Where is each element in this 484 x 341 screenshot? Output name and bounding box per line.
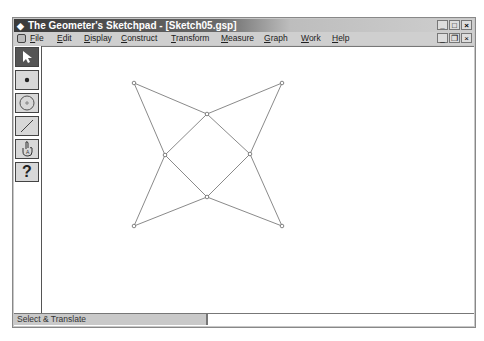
menu-edit[interactable]: Edit xyxy=(57,32,72,45)
menu-file[interactable]: File xyxy=(30,32,44,45)
compass-tool[interactable] xyxy=(15,93,39,113)
circle-icon xyxy=(18,94,36,112)
text-tool[interactable]: A xyxy=(15,139,39,159)
maximize-button[interactable]: □ xyxy=(449,20,460,30)
minimize-button[interactable]: _ xyxy=(437,20,448,30)
document-controls: _ ❐ × xyxy=(437,33,472,43)
menu-help[interactable]: Help xyxy=(332,32,349,45)
menu-work[interactable]: Work xyxy=(301,32,321,45)
menu-graph[interactable]: Graph xyxy=(264,32,288,45)
status-text: Select & Translate xyxy=(14,314,208,325)
menu-construct[interactable]: Construct xyxy=(121,32,157,45)
toolbox: A ? xyxy=(14,46,42,315)
close-button[interactable]: × xyxy=(461,20,472,30)
point-icon xyxy=(22,75,32,85)
arrow-icon xyxy=(21,50,33,64)
menu-measure[interactable]: Measure xyxy=(221,32,254,45)
menu-bar: File Edit Display Construct Transform Me… xyxy=(14,32,474,45)
document-icon[interactable] xyxy=(17,34,26,43)
app-window: ◆ The Geometer's Sketchpad - [Sketch05.g… xyxy=(12,17,476,328)
menu-display[interactable]: Display xyxy=(84,32,112,45)
selection-arrow-tool[interactable] xyxy=(15,47,39,67)
doc-close-button[interactable]: × xyxy=(461,33,472,43)
menu-transform[interactable]: Transform xyxy=(171,32,209,45)
title-bar[interactable]: ◆ The Geometer's Sketchpad - [Sketch05.g… xyxy=(14,19,474,32)
svg-text:A: A xyxy=(26,149,30,155)
window-title: The Geometer's Sketchpad - [Sketch05.gsp… xyxy=(28,19,237,32)
script-tool[interactable]: ? xyxy=(15,162,39,182)
window-controls: _ □ × xyxy=(437,20,472,30)
hand-text-icon: A xyxy=(19,140,35,158)
straightedge-tool[interactable] xyxy=(15,116,39,136)
sketch-canvas[interactable] xyxy=(42,46,474,316)
point-tool[interactable] xyxy=(15,70,39,90)
segment-icon xyxy=(19,118,35,134)
doc-restore-button[interactable]: ❐ xyxy=(449,33,460,43)
doc-minimize-button[interactable]: _ xyxy=(437,33,448,43)
status-bar: Select & Translate xyxy=(14,313,474,326)
